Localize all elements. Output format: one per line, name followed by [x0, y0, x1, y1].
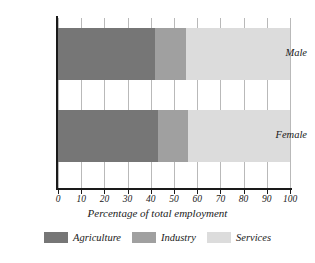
bar-segment-industry	[158, 110, 188, 162]
chart-legend: AgricultureIndustryServices	[0, 232, 315, 243]
legend-label: Services	[236, 232, 271, 243]
x-axis-title: Percentage of total employment	[0, 207, 315, 219]
legend-item-services[interactable]: Services	[207, 232, 271, 243]
legend-swatch-icon	[207, 232, 231, 243]
y-axis-line	[56, 16, 58, 190]
x-axis-tick-label: 30	[123, 194, 133, 204]
category-label-female: Female	[276, 129, 308, 140]
x-axis-tick-label: 40	[146, 194, 156, 204]
gridline	[290, 18, 291, 188]
bar-segment-agriculture	[58, 28, 155, 80]
legend-swatch-icon	[132, 232, 156, 243]
bar-row	[58, 28, 290, 80]
legend-label: Agriculture	[73, 232, 121, 243]
stacked-bar-chart: 0102030405060708090100 MaleFemale Percen…	[0, 0, 315, 263]
x-axis-tick-label: 70	[216, 194, 226, 204]
x-axis-tick-label: 90	[262, 194, 272, 204]
legend-item-industry[interactable]: Industry	[132, 232, 196, 243]
x-axis-tick-label: 100	[283, 194, 297, 204]
legend-item-agriculture[interactable]: Agriculture	[44, 232, 121, 243]
bar-segment-agriculture	[58, 110, 158, 162]
plot-area	[58, 18, 290, 188]
legend-swatch-icon	[44, 232, 68, 243]
category-label-male: Male	[285, 47, 307, 58]
bar-row	[58, 110, 290, 162]
bar-segment-industry	[155, 28, 185, 80]
x-axis-tick-label: 80	[239, 194, 249, 204]
x-axis-tick-label: 60	[192, 194, 202, 204]
x-axis-tick-label: 10	[76, 194, 86, 204]
bar-segment-services	[186, 28, 290, 80]
legend-label: Industry	[161, 232, 196, 243]
x-axis-tick-label: 50	[169, 194, 179, 204]
x-axis-tick-label: 0	[56, 194, 61, 204]
x-axis-tick-label: 20	[100, 194, 110, 204]
